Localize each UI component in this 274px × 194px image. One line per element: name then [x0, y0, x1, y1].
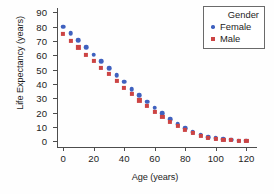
- data-point-male: [137, 98, 141, 102]
- data-point-male: [61, 32, 65, 36]
- y-axis-tick: 0: [53, 141, 57, 142]
- data-point-female: [130, 87, 135, 92]
- y-axis-tick-label: 60: [36, 50, 47, 61]
- data-point-male: [198, 133, 202, 137]
- x-axis-tick: 20: [94, 147, 95, 151]
- data-point-female: [76, 38, 81, 43]
- y-axis-tick: 90: [53, 12, 57, 13]
- data-point-male: [145, 104, 149, 108]
- data-point-male: [176, 124, 180, 128]
- data-point-male: [99, 66, 103, 70]
- data-point-male: [221, 137, 225, 141]
- data-point-male: [153, 110, 157, 114]
- data-point-female: [91, 52, 96, 57]
- y-axis-tick: 40: [53, 84, 57, 85]
- x-axis-tick: 0: [63, 147, 64, 151]
- legend: Gender Female Male: [203, 6, 265, 49]
- data-point-male: [69, 39, 73, 43]
- legend-label-female: Female: [220, 21, 251, 33]
- legend-title: Gender: [204, 9, 264, 21]
- x-axis-tick: 40: [124, 147, 125, 151]
- data-point-female: [114, 73, 119, 78]
- data-point-male: [244, 138, 248, 142]
- data-point-male: [183, 128, 187, 132]
- x-axis-title: Age (years): [57, 172, 253, 182]
- y-axis-tick: 70: [53, 41, 57, 42]
- y-axis-tick-label: 90: [36, 7, 47, 18]
- x-axis-tick-label: 40: [119, 153, 130, 164]
- y-axis-tick-label: 30: [36, 93, 47, 104]
- data-point-female: [137, 93, 142, 98]
- y-axis-tick: 10: [53, 127, 57, 128]
- data-point-male: [114, 79, 118, 83]
- data-point-male: [107, 72, 111, 76]
- y-axis-tick: 20: [53, 113, 57, 114]
- data-point-female: [99, 59, 104, 64]
- data-point-male: [92, 59, 96, 63]
- x-axis-tick-label: 0: [60, 153, 65, 164]
- data-point-female: [61, 24, 66, 29]
- data-point-male: [84, 52, 88, 56]
- y-axis-tick: 50: [53, 70, 57, 71]
- y-axis-tick-label: 0: [42, 136, 47, 147]
- data-point-male: [160, 115, 164, 119]
- y-axis-tick-label: 70: [36, 35, 47, 46]
- data-point-female: [107, 66, 112, 71]
- x-axis-tick-label: 100: [208, 153, 224, 164]
- data-point-male: [76, 45, 80, 49]
- data-point-male: [214, 137, 218, 141]
- x-axis-line: [57, 147, 257, 148]
- data-point-female: [68, 31, 73, 36]
- legend-label-male: Male: [220, 33, 240, 45]
- legend-item-female: Female: [204, 21, 264, 33]
- data-point-male: [130, 92, 134, 96]
- y-axis-tick: 60: [53, 55, 57, 56]
- data-point-male: [191, 131, 195, 135]
- x-axis-tick-label: 120: [238, 153, 254, 164]
- x-axis-tick: 60: [155, 147, 156, 151]
- y-axis-tick-label: 10: [36, 121, 47, 132]
- x-axis-tick-label: 60: [149, 153, 160, 164]
- y-axis-tick-label: 50: [36, 64, 47, 75]
- y-axis-title: Life Expectancy (years): [15, 0, 25, 129]
- x-axis-tick: 100: [216, 147, 217, 151]
- y-axis-tick-label: 40: [36, 78, 47, 89]
- data-point-male: [122, 86, 126, 90]
- data-point-male: [206, 136, 210, 140]
- x-axis-tick-label: 20: [88, 153, 99, 164]
- x-axis-tick: 80: [185, 147, 186, 151]
- x-axis-tick: 120: [246, 147, 247, 151]
- square-icon: [208, 37, 218, 40]
- life-expectancy-scatter-chart: Life Expectancy (years) Age (years) 0102…: [0, 0, 274, 194]
- y-axis-tick: 30: [53, 98, 57, 99]
- legend-item-male: Male: [204, 33, 264, 45]
- x-axis-tick-label: 80: [180, 153, 191, 164]
- data-point-male: [237, 138, 241, 142]
- data-point-female: [122, 80, 127, 85]
- data-point-male: [229, 138, 233, 142]
- y-axis-tick-label: 20: [36, 107, 47, 118]
- data-point-male: [168, 120, 172, 124]
- circle-icon: [208, 25, 218, 28]
- y-axis-tick: 80: [53, 27, 57, 28]
- y-axis-tick-label: 80: [36, 21, 47, 32]
- data-point-female: [84, 45, 89, 50]
